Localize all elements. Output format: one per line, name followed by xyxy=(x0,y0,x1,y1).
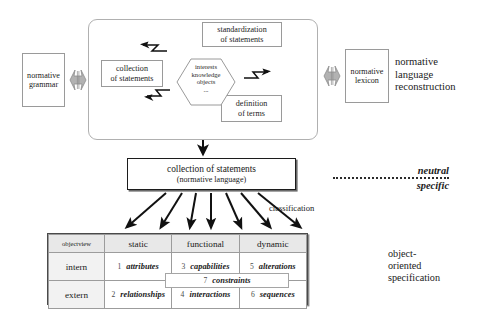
double-headed-arrow-icon-lexicon xyxy=(322,61,342,91)
neutral-specific-axis: neutral specific xyxy=(333,165,449,192)
classification-label: classification xyxy=(269,203,314,213)
table-cell-extern-static: 2relationships xyxy=(105,281,172,309)
hexagon-label: interestsknowledgeobjects... xyxy=(176,63,236,94)
cell-term: interactions xyxy=(189,290,230,299)
standardization-of-statements-box: standardizationof statements xyxy=(202,22,282,47)
cell-number: 6 xyxy=(251,290,255,299)
constraints-number: 7 xyxy=(204,276,208,285)
normative-lexicon-label: normativelexicon xyxy=(351,67,384,85)
knowledge-objects-hexagon: interestsknowledgeobjects... xyxy=(176,58,236,106)
table-rowhead-extern: extern xyxy=(49,281,105,309)
constraints-overlay-box: 7constraints xyxy=(165,273,289,288)
collection-of-statements-box: collectionof statements xyxy=(101,60,163,87)
cell-term: alterations xyxy=(259,262,296,271)
cell-number: 4 xyxy=(181,290,185,299)
neutral-label: neutral xyxy=(333,165,449,176)
collection-of-statements-normative-language-box: collection of statements (normative lang… xyxy=(127,158,296,190)
cell-number: 1 xyxy=(117,262,121,271)
double-headed-arrow-icon-grammar xyxy=(68,65,88,95)
normative-grammar-label: normativegrammar xyxy=(27,71,60,89)
classification-table: objectview static functional dynamic int… xyxy=(47,233,308,305)
cell-term: relationships xyxy=(120,290,165,299)
table-col-static: static xyxy=(105,235,172,253)
table-rowhead-intern: intern xyxy=(49,253,105,281)
cell-term: attributes xyxy=(126,262,159,271)
table-corner-objectview: objectview xyxy=(49,235,105,253)
result-box-line1: collection of statements xyxy=(167,164,256,175)
cell-number: 2 xyxy=(111,290,115,299)
definition-label: definitionof terms xyxy=(236,99,267,117)
dotted-divider xyxy=(333,177,449,179)
cell-number: 5 xyxy=(250,262,254,271)
specific-label: specific xyxy=(333,180,449,191)
table-cell-intern-static: 1attributes xyxy=(105,253,172,281)
normative-language-reconstruction-label: normativelanguagereconstruction xyxy=(395,56,479,94)
classification-table-grid: objectview static functional dynamic int… xyxy=(48,234,307,309)
cell-number: 3 xyxy=(182,262,186,271)
table-col-dynamic: dynamic xyxy=(239,235,306,253)
normative-lexicon-box: normativelexicon xyxy=(345,49,389,103)
constraints-term: constraints xyxy=(212,276,250,285)
result-box-line2: (normative language) xyxy=(177,175,246,184)
object-oriented-specification-label: object-orientedspecification xyxy=(388,248,476,284)
standardization-label: standardizationof statements xyxy=(217,25,266,43)
table-header-row: objectview static functional dynamic xyxy=(49,235,307,253)
normative-grammar-box: normativegrammar xyxy=(22,53,65,107)
table-col-functional: functional xyxy=(172,235,239,253)
cell-term: sequences xyxy=(260,290,295,299)
cell-term: capabilities xyxy=(190,262,229,271)
collection-inner-label: collectionof statements xyxy=(111,64,154,82)
diagram-canvas: normativegrammar normativelexicon normat… xyxy=(0,0,479,327)
